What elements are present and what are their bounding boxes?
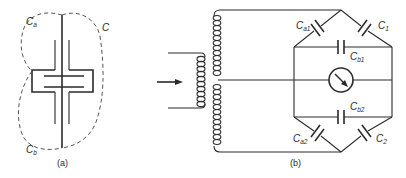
wire-c2-b [341,136,361,152]
caption-b: (b) [290,158,301,168]
wire-ca1-a [321,10,341,26]
label-c1: C1 [378,20,389,32]
figure-a: Ca C Cb (a) [18,13,110,168]
label-cb2: Cb2 [350,101,365,113]
label-c: C [102,22,110,33]
label-ca1: Ca1 [296,20,311,32]
arrow-right-icon [175,79,183,85]
secondary-bottom-wire [214,146,341,152]
figure-b: Ca1 C1 Cb1 Cb2 Ca2 C2 (b) [157,10,392,168]
label-cb: Cb [26,144,37,156]
diagram-canvas: Ca C Cb (a) [0,0,406,178]
stray-path-c [62,13,103,148]
label-c2: C2 [376,133,387,145]
caption-a: (a) [57,158,68,168]
wire-c2-a [368,117,392,131]
secondary-top-wire [214,10,341,16]
label-ca: Ca [26,16,37,28]
wire-ca2-a [294,117,314,131]
wire-ca1-b [294,31,314,47]
galvanometer-icon [329,68,353,92]
wire-c1-a [341,10,361,26]
secondary-coil-upper [213,16,221,76]
primary-coil [197,56,205,106]
wire-c1-b [368,31,392,47]
label-cb1: Cb1 [350,51,365,63]
secondary-coil-lower [213,85,221,145]
label-ca2: Ca2 [293,133,308,145]
wire-ca2-b [321,136,341,152]
